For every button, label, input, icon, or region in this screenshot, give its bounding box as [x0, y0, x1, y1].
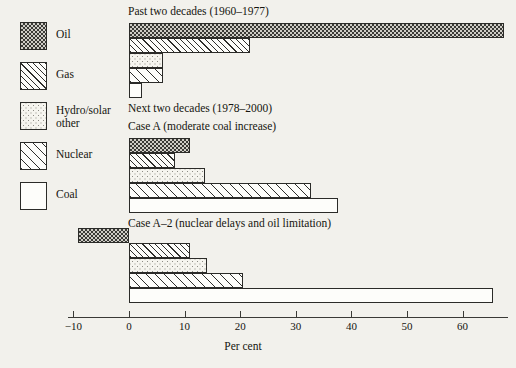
bar-case-a2-oil	[78, 228, 129, 243]
x-tick-label-30: 30	[290, 320, 301, 332]
bar-past-hydro	[129, 53, 163, 68]
bar-case-a2-coal	[129, 288, 493, 303]
x-tick-60	[463, 311, 464, 318]
bar-case-a2-nuclear	[129, 273, 243, 288]
bar-case-a-nuclear	[129, 183, 311, 198]
x-tick-0	[129, 311, 130, 318]
bar-case-a-oil	[129, 138, 190, 153]
x-tick-20	[240, 311, 241, 318]
x-tick-label--10: −10	[65, 320, 82, 332]
bar-case-a-gas	[129, 153, 175, 168]
x-tick-label-0: 0	[126, 320, 132, 332]
bar-past-oil	[129, 23, 504, 38]
group-subtitle-case-a: Case A (moderate coal increase)	[128, 120, 276, 132]
bar-case-a2-gas	[129, 243, 190, 258]
x-axis-line	[68, 317, 508, 318]
x-tick-40	[351, 311, 352, 318]
x-tick-label-10: 10	[179, 320, 190, 332]
x-tick--10	[73, 311, 74, 318]
plot-area: Past two decades (1960–1977) Next two de…	[0, 0, 516, 368]
chart-root: Oil Gas Hydro/solar other Nuclear Coal P…	[0, 0, 516, 368]
x-tick-label-50: 50	[402, 320, 413, 332]
x-tick-10	[185, 311, 186, 318]
bar-case-a-hydro	[129, 168, 205, 183]
x-tick-30	[296, 311, 297, 318]
x-axis-title: Per cent	[0, 340, 516, 352]
x-tick-label-20: 20	[235, 320, 246, 332]
bar-case-a-coal	[129, 198, 338, 213]
bar-past-nuclear	[129, 68, 163, 83]
group-title-past: Past two decades (1960–1977)	[128, 5, 269, 17]
group-title-next: Next two decades (1978–2000)	[128, 102, 272, 114]
bar-past-coal	[129, 83, 142, 98]
bar-past-gas	[129, 38, 250, 53]
group-subtitle-case-a2: Case A–2 (nuclear delays and oil limitat…	[128, 217, 331, 229]
x-axis-title-text: Per cent	[224, 340, 261, 352]
x-tick-label-40: 40	[346, 320, 357, 332]
x-tick-50	[407, 311, 408, 318]
bar-case-a2-hydro	[129, 258, 207, 273]
x-tick-label-60: 60	[457, 320, 468, 332]
